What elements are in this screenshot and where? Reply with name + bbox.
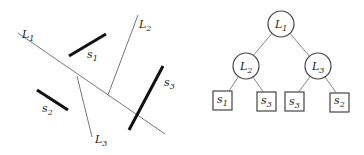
tree-node-L2: L2 xyxy=(233,53,259,79)
line-L3 xyxy=(77,76,92,137)
label-L1: L1 xyxy=(21,28,34,43)
edge xyxy=(288,31,310,57)
tree-leaf-s1: s1 xyxy=(213,91,232,110)
line-L2 xyxy=(108,15,138,95)
label-s2: s2 xyxy=(42,102,53,117)
label-L2: L2 xyxy=(138,18,151,33)
tree-leaf-s3-right: s3 xyxy=(285,92,304,111)
label-L3: L3 xyxy=(94,133,107,148)
tree-node-L1: L1 xyxy=(268,11,294,37)
edge xyxy=(252,31,274,57)
label-s3: s3 xyxy=(164,76,175,91)
partition-figure: L1 L2 L3 s1 s2 s3 xyxy=(18,15,175,148)
tree-leaf-s2: s2 xyxy=(330,93,349,112)
bsp-tree: L1 L2 L3 s1 s3 s3 s2 xyxy=(213,11,349,112)
tree-leaf-s3-left: s3 xyxy=(257,92,276,111)
tree-node-L3: L3 xyxy=(305,53,331,79)
label-s1: s1 xyxy=(87,48,98,63)
bsp-diagram: L1 L2 L3 s1 s2 s3 L1 L2 L3 s1 xyxy=(0,0,364,155)
